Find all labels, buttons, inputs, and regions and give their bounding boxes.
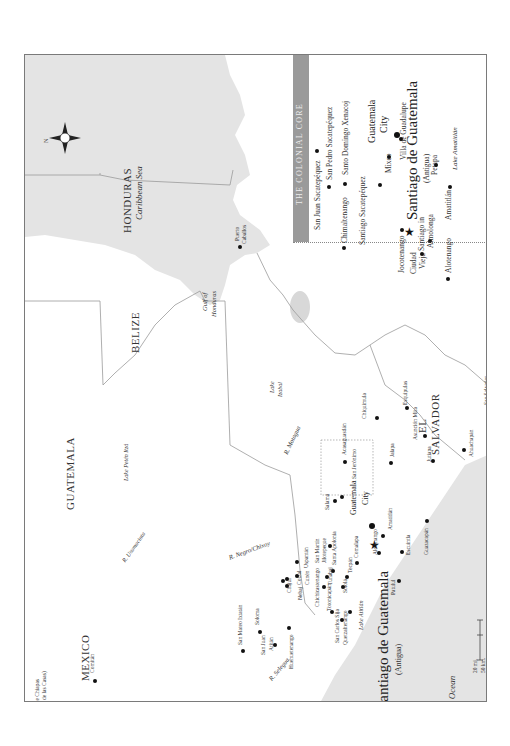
- dot-tunabaj: [325, 575, 329, 579]
- inset-dot-chimaltenango: [342, 246, 346, 250]
- dot-esquipulas: [405, 406, 409, 410]
- country-el-salvador-label-1: EL: [417, 419, 428, 433]
- dot-soloma: [258, 630, 262, 634]
- guatemala-city-label-2: City: [362, 491, 370, 505]
- town-puerto-caballos-1: Puerto: [235, 227, 241, 241]
- town-amatitlan: Amatitlán: [388, 508, 394, 530]
- town-san-jeronimo: San Jerónimo: [352, 449, 358, 479]
- dot-solola: [341, 585, 345, 589]
- town-patulul: Patulul: [391, 579, 397, 595]
- dot-tecpan: [345, 575, 349, 579]
- inset-lake-amatitlan: Lake Amatitlán: [452, 127, 459, 170]
- dot-comalapa: [355, 561, 359, 565]
- inset-dot-villa-guadalupe: [399, 137, 403, 141]
- dot-uspantan: [295, 560, 299, 564]
- scale-miles-label: 20 mi.: [473, 659, 479, 673]
- town-soloma: Soloma: [255, 608, 261, 625]
- dot-alotenango: [377, 551, 381, 555]
- dot-guazacapan: [425, 519, 429, 523]
- dot-patulul: [397, 579, 401, 583]
- town-comitan: Comitán: [90, 654, 96, 673]
- guatemala-city-label-1: Guatemala: [350, 480, 358, 515]
- dot-san-jeronimo: [340, 495, 344, 499]
- inset-guatemala-city-1: Guatemala: [367, 100, 377, 143]
- inset-dot-petapa: [434, 163, 438, 167]
- dot-nebaj: [285, 584, 289, 588]
- inset-dot-almolonga: [420, 252, 424, 256]
- town-acasaguastlan: Acasaguastlán: [342, 423, 348, 455]
- lake-peten-label: Lake Petén Itzá: [123, 444, 129, 481]
- scale-km-label: 50 km.: [481, 658, 487, 673]
- town-comalapa: Comalapa: [354, 536, 360, 558]
- town-tecpan: Tecpán: [348, 557, 354, 573]
- dot-ahuachapan: [462, 448, 466, 452]
- dot-puerto-caballos: [238, 245, 242, 249]
- dot-cotzal: [285, 577, 289, 581]
- town-san-martin-1: San Martín: [315, 538, 321, 563]
- town-san-juan-1: San Juan: [261, 635, 267, 655]
- town-quetzaltenango: Quetzaltenango: [343, 610, 349, 645]
- dot-quetzaltenango: [348, 610, 352, 614]
- town-ahuachapan: Ahuachapán: [469, 430, 475, 458]
- dot-escuintla: [400, 550, 404, 554]
- inset-dot-amatitlan: [448, 185, 452, 189]
- town-salama: Salamá: [325, 494, 331, 510]
- town-guazacapan: Guazacapán: [424, 528, 430, 555]
- inset-town-san-pedro: San Pedro Sacatepéquez: [326, 107, 334, 180]
- town-san-martin-2: Jilotepeque: [322, 538, 328, 563]
- inset-title: THE COLONIAL CORE: [296, 103, 304, 205]
- town-nebaj: Nebaj: [298, 587, 304, 600]
- dot-comitan: [93, 679, 97, 683]
- town-huehuetenango: Huehuetenango: [289, 634, 295, 669]
- inset-town-alotenango: Alotenango: [445, 238, 453, 273]
- dot-jutiapa: [431, 459, 435, 463]
- town-cunen: Cunén: [305, 571, 311, 585]
- inset-dot-san-juan: [315, 149, 319, 153]
- lake-atitlan-label: Lake Atitlán: [358, 601, 364, 630]
- gulf-of-honduras-label-1: Gulf of: [202, 293, 209, 311]
- inset-capital-label: Santiago de Guatemala: [405, 81, 420, 220]
- dot-asuncion-mita: [423, 434, 427, 438]
- town-ciudad-real-1: Ciudad Real de Chiapas: [35, 679, 41, 702]
- dot-san-juan: [273, 643, 277, 647]
- lake-izabal-label-2: Izabal: [277, 382, 283, 397]
- inset-town-ciudad-vieja-1: Ciudad: [410, 252, 418, 274]
- inset-dot-alotenango: [446, 277, 450, 281]
- map-frame: N THE COLONIAL CORE San Juan Sacatepéque…: [24, 54, 487, 702]
- country-honduras-label: HONDURAS: [122, 168, 133, 233]
- town-san-salvador: San Salvador: [484, 376, 487, 405]
- inset-town-amatitlan: Amatitlán: [445, 190, 453, 220]
- el-salvador-border: [370, 345, 465, 460]
- dot-amatitlan: [381, 534, 385, 538]
- inset-dot-santo-domingo: [343, 182, 347, 186]
- inset-town-jocotenango: Jocotenango: [398, 236, 406, 274]
- town-uspantan: Uspantán: [304, 547, 310, 568]
- town-escuintla: Escuintla: [406, 535, 412, 555]
- compass-north-label: N: [43, 139, 49, 143]
- inset-dot-santiago-sac: [378, 183, 382, 187]
- dot-san-mateo: [241, 649, 245, 653]
- inset-town-santo-domingo: Santo Domingo Xenacoj: [342, 101, 350, 175]
- caribbean-sea-label: Caribbean Sea: [135, 166, 144, 220]
- dot-huehuetenango: [287, 626, 291, 630]
- town-esquipulas: Esquipulas: [403, 381, 409, 405]
- capital-label: Santiago de Guatemala: [376, 571, 391, 702]
- dot-jalapa: [389, 461, 393, 465]
- inset-town-santiago-sac: Santiago Sacatepéquez: [359, 176, 367, 245]
- caribbean-sea-shape: [25, 55, 270, 305]
- inset-town-chimaltenango: Chimaltenango: [341, 197, 349, 243]
- inset-capital-star-icon: ★: [404, 226, 415, 238]
- country-belize-label: BELIZE: [130, 312, 141, 353]
- town-ciudad-real-2: (San Cristóbal de las Casas): [42, 671, 48, 702]
- pacific-ocean-label: Pacific Ocean: [448, 676, 457, 702]
- town-santa-apolonia: Santa Apolonia: [332, 531, 338, 565]
- town-asuncion-mita: Asunción Mita: [413, 407, 419, 440]
- gulf-of-honduras-label-2: Honduras: [211, 291, 218, 317]
- dot-cunen: [295, 574, 299, 578]
- dot-chiquimula: [375, 416, 379, 420]
- town-san-carlos: San Carlos Sija: [335, 609, 341, 643]
- inset-town-almolonga-2: Almolonga: [427, 214, 435, 248]
- town-chichicastenango: Chichicastenango: [315, 568, 321, 607]
- inset-dot-san-pedro: [327, 185, 331, 189]
- inset-dot-mixco: [387, 155, 391, 159]
